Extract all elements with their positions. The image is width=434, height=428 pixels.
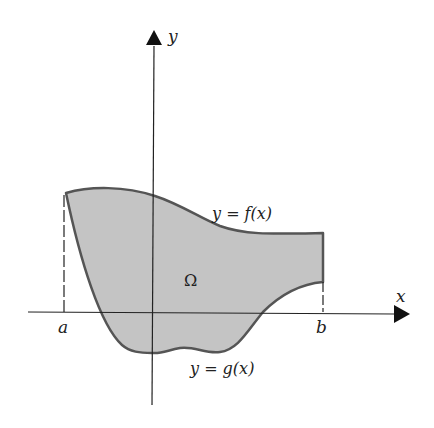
label-b: b [316,317,327,337]
label-a: a [58,317,68,337]
region-diagram: y x a b Ω y = f(x) y = g(x) [0,0,434,428]
y-axis-arrow-icon [146,30,162,45]
x-axis-label: x [396,286,406,306]
y-axis-label: y [167,26,178,46]
region-label: Ω [184,271,197,290]
upper-curve-label: y = f(x) [211,204,272,223]
lower-curve-label: y = g(x) [189,359,254,378]
x-axis-arrow-icon [394,305,410,323]
